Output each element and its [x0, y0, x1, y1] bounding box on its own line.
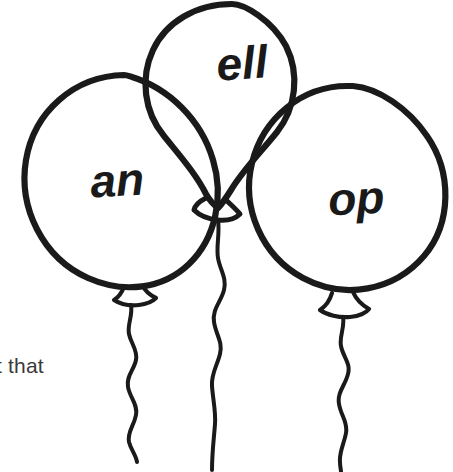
balloon-op-label: op — [327, 171, 386, 226]
balloons-illustration: an ell op — [0, 0, 453, 472]
balloon-ell-label: ell — [215, 35, 271, 91]
caption-partial-text: t that — [0, 355, 44, 376]
balloon-an-label: an — [89, 153, 145, 208]
balloons-drawing: an ell op — [0, 0, 453, 472]
